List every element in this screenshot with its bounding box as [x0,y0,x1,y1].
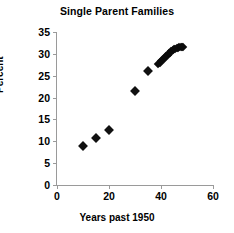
plot-area: 05101520253035 0204060 [57,32,213,185]
y-tick-mark [53,76,57,77]
data-point [143,66,153,76]
y-tick-mark [53,98,57,99]
data-point [78,141,88,151]
y-tick-mark [53,32,57,33]
y-tick-mark [53,163,57,164]
x-tick-mark [109,185,110,189]
x-tick-mark [161,185,162,189]
x-tick-mark [213,185,214,189]
y-tick-mark [53,54,57,55]
y-tick-label: 35 [38,26,50,38]
x-axis-title: Years past 1950 [0,212,234,223]
data-point [91,133,101,143]
y-tick-label: 10 [38,135,50,147]
y-tick-label: 30 [38,48,50,60]
x-tick-label: 40 [155,190,167,202]
x-tick-mark [57,185,58,189]
chart-container: Single Parent Families Percent Years pas… [0,0,234,233]
x-tick-label: 60 [207,190,219,202]
y-tick-label: 0 [44,179,50,191]
y-tick-label: 20 [38,92,50,104]
y-tick-label: 5 [44,157,50,169]
y-tick-label: 15 [38,113,50,125]
data-point [104,125,114,135]
x-tick-label: 0 [54,190,60,202]
y-tick-mark [53,119,57,120]
y-tick-label: 25 [38,70,50,82]
chart-title: Single Parent Families [0,5,234,17]
x-axis-line [56,185,213,186]
y-tick-mark [53,141,57,142]
x-tick-label: 20 [103,190,115,202]
data-point [130,86,140,96]
y-axis-title: Percent [0,56,5,93]
